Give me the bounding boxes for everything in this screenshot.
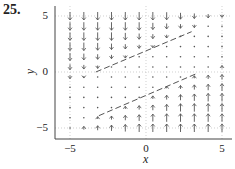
field-arrow (138, 56, 140, 58)
field-arrow (180, 66, 182, 68)
field-arrow (109, 32, 113, 40)
field-arrow (151, 114, 155, 121)
field-arrow (69, 127, 71, 129)
field-arrow (96, 117, 100, 120)
axes (55, 6, 232, 139)
field-arrow (69, 117, 71, 119)
field-arrow (82, 43, 86, 51)
field-arrow (68, 12, 72, 20)
field-arrow (166, 66, 168, 68)
field-arrow (194, 56, 196, 58)
field-arrow (125, 97, 127, 99)
field-arrow (194, 36, 196, 38)
field-arrow (123, 44, 127, 49)
field-arrow (207, 25, 209, 27)
field-arrow (82, 54, 86, 60)
field-arrow (125, 86, 127, 88)
field-arrow (220, 84, 224, 91)
field-arrow (111, 107, 113, 109)
field-arrow (165, 35, 169, 38)
field-arrow (123, 115, 127, 120)
field-arrow (151, 105, 155, 110)
field-arrow (220, 114, 224, 122)
field-arrow (138, 76, 140, 78)
field-arrow (137, 22, 141, 30)
field-arrow (207, 56, 209, 58)
field-arrow (68, 53, 72, 61)
field-arrow (206, 14, 210, 18)
field-arrow (192, 114, 196, 122)
field-arrow (207, 66, 209, 68)
field-arrow (192, 85, 196, 90)
field-arrow (221, 56, 223, 58)
field-arrow (165, 124, 169, 132)
field-arrow (221, 25, 223, 27)
field-arrow (97, 86, 99, 88)
field-arrow (138, 66, 140, 68)
field-arrow (111, 66, 113, 68)
field-arrow (109, 44, 113, 50)
dashed-line-upper (96, 32, 192, 72)
field-arrow (165, 95, 169, 99)
field-arrow (138, 97, 140, 99)
field-arrow (123, 55, 127, 58)
field-arrow (97, 107, 99, 109)
field-arrow (96, 32, 100, 40)
field-arrow (180, 56, 182, 58)
field-arrow (69, 97, 71, 99)
field-arrow (165, 104, 169, 111)
field-arrow (192, 124, 196, 132)
field-arrow (69, 107, 71, 109)
field-arrow (125, 66, 127, 68)
field-arrow (165, 114, 169, 122)
field-arrow (192, 76, 196, 79)
field-arrow (207, 36, 209, 38)
field-arrow (69, 86, 71, 88)
field-arrow (123, 106, 127, 109)
field-arrow (220, 15, 224, 18)
field-arrow (206, 124, 210, 132)
field-arrow (206, 104, 210, 112)
field-arrow (220, 93, 224, 101)
field-arrow (206, 75, 210, 79)
field-arrow (137, 45, 141, 49)
field-arrow (111, 97, 113, 99)
field-arrow (192, 13, 196, 18)
field-arrow (137, 124, 141, 132)
field-arrow (123, 22, 127, 30)
field-arrow (207, 46, 209, 48)
field-arrow (82, 65, 86, 69)
field-arrow (137, 106, 141, 110)
field-arrow (123, 12, 127, 20)
field-arrow (152, 86, 154, 88)
field-arrow (111, 76, 113, 78)
field-arrow (96, 12, 100, 20)
field-arrow (221, 46, 223, 48)
field-arrow (111, 86, 113, 88)
field-arrow (166, 56, 168, 58)
field-arrow (83, 97, 85, 99)
field-arrow (206, 93, 210, 101)
field-arrow (137, 34, 141, 40)
field-arrow (206, 114, 210, 122)
field-arrow (166, 46, 168, 48)
field-arrow (179, 95, 183, 101)
field-arrow (82, 32, 86, 40)
field-arrow (68, 75, 72, 78)
field-arrow (68, 43, 72, 51)
field-arrow (138, 86, 140, 88)
field-arrow (68, 64, 72, 69)
field-arrow (194, 66, 196, 68)
field-arrow (192, 94, 196, 101)
field-arrow (192, 25, 196, 28)
field-arrow (151, 96, 155, 99)
field-arrow (82, 126, 86, 129)
field-arrow (83, 117, 85, 119)
field-arrow (206, 84, 210, 90)
field-arrow (220, 74, 224, 79)
field-arrow (96, 66, 100, 69)
field-arrow (97, 76, 99, 78)
field-arrow (165, 23, 169, 28)
field-arrow (194, 46, 196, 48)
field-arrow (96, 22, 100, 30)
